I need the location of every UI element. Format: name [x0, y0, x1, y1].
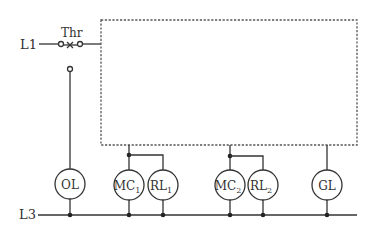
switch-contact-right — [78, 42, 83, 47]
junction-rl1-l3 — [161, 213, 166, 218]
ol-terminal — [68, 67, 73, 72]
rl1-wire-top — [129, 155, 163, 170]
l3-label: L3 — [19, 207, 36, 222]
junction-mc2-l3 — [228, 213, 233, 218]
junction-ol — [68, 213, 73, 218]
junction-rl2-l3 — [261, 213, 266, 218]
l1-label: L1 — [20, 37, 37, 52]
thr-label: Thr — [61, 26, 83, 40]
gl-label: GL — [318, 179, 336, 193]
thermal-switch: Thr — [59, 26, 83, 48]
junction-mc1-l3 — [127, 213, 132, 218]
rl2-wire-top — [230, 156, 263, 170]
control-block — [101, 20, 357, 145]
switch-contact-left — [59, 42, 64, 47]
junction-gl-l3 — [325, 213, 330, 218]
ol-label: OL — [61, 178, 79, 192]
control-circuit-diagram: L1 Thr OL MC1 RL1 MC2 RL2 GL L3 — [0, 0, 380, 233]
